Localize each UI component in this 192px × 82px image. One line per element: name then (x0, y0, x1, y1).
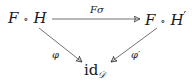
node-F-compose-H: F ∘ H (8, 11, 46, 26)
node-F-compose-H-prime: F ∘ H′ (145, 11, 186, 28)
symbol-F: F (8, 9, 18, 27)
label-F-sigma: Fσ (90, 5, 104, 15)
prime-mark: ′ (183, 10, 186, 24)
label-phi: φ (52, 50, 59, 60)
symbol-F: F (145, 11, 155, 29)
label-phi-prime: φ′ (131, 50, 140, 60)
node-identity-D: id𝒟 (84, 63, 105, 80)
category-D-subscript: 𝒟 (98, 70, 105, 80)
symbol-H: H (33, 9, 46, 27)
compose-operator: ∘ (23, 13, 28, 26)
arrow-phi (39, 28, 82, 62)
symbol-H: H (170, 11, 183, 29)
identity-symbol: id (84, 61, 98, 79)
compose-operator: ∘ (160, 15, 165, 28)
